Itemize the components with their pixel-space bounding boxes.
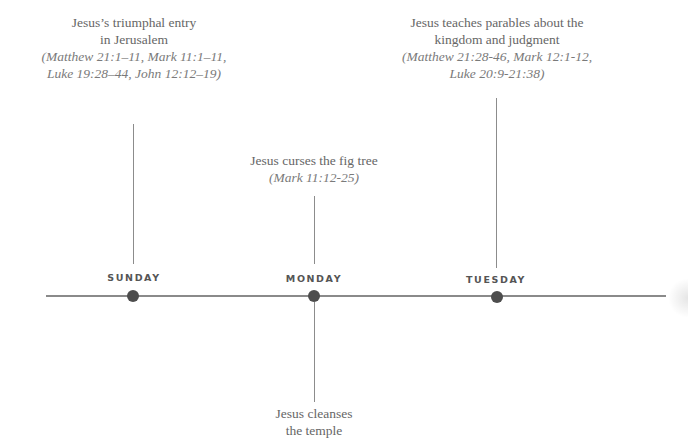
connector-line-monday-bottom (314, 302, 315, 402)
scripture-reference: (Matthew 21:28-46, Mark 12:1-12, (387, 48, 607, 65)
event-title-line: Jesus curses the fig tree (214, 152, 414, 169)
day-label-sunday: SUNDAY (74, 272, 194, 283)
event-title-line: Jesus teaches parables about the (387, 14, 607, 31)
day-label-tuesday: TUESDAY (436, 274, 556, 285)
scripture-reference: (Matthew 21:1–11, Mark 11:1–11, (34, 48, 234, 65)
event-teaches-parables: Jesus teaches parables about the kingdom… (387, 14, 607, 82)
scripture-reference: (Mark 11:12-25) (214, 169, 414, 186)
page-edge-shadow (668, 278, 688, 318)
event-title-line: kingdom and judgment (387, 31, 607, 48)
timeline-dot-sunday (127, 290, 139, 302)
event-curses-fig-tree: Jesus curses the fig tree (Mark 11:12-25… (214, 152, 414, 186)
event-cleanses-temple: Jesus cleanses the temple (244, 405, 384, 439)
event-title-line: the temple (244, 422, 384, 439)
day-label-monday: MONDAY (254, 273, 374, 284)
connector-line-tuesday (496, 98, 497, 268)
scripture-reference: Luke 19:28–44, John 12:12–19) (34, 65, 234, 82)
connector-line-monday-top (314, 196, 315, 264)
timeline-dot-tuesday (491, 291, 503, 303)
timeline-axis-line (46, 295, 666, 297)
connector-line-sunday (133, 124, 134, 264)
scripture-reference: Luke 20:9-21:38) (387, 65, 607, 82)
event-triumphal-entry: Jesus’s triumphal entry in Jerusalem (Ma… (34, 14, 234, 82)
event-title-line: Jesus’s triumphal entry (34, 14, 234, 31)
timeline-dot-monday (308, 290, 320, 302)
event-title-line: in Jerusalem (34, 31, 234, 48)
event-title-line: Jesus cleanses (244, 405, 384, 422)
